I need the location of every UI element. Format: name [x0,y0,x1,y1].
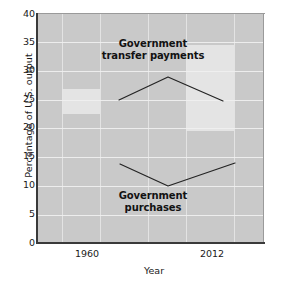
annotation-transfer-line1: Government [78,38,228,50]
annotation-purchases-line2: purchases [78,202,228,214]
y-tick-10: 10 [1,180,35,190]
x-axis-line [36,242,265,244]
annotation-purchases-line1: Government [78,190,228,202]
gridline-20 [38,128,264,129]
annotation-transfer-payments: Government transfer payments [78,38,228,62]
gridline-15 [38,157,264,158]
y-tick-40: 40 [1,9,35,19]
y-tick-20: 20 [1,122,35,132]
plot-right-edge [263,13,264,244]
annotation-transfer-line2: transfer payments [78,50,228,62]
x-tick-1960: 1960 [57,248,117,259]
y-axis-line [36,13,38,244]
gridline-30 [38,71,264,72]
gridline-25 [38,100,264,101]
plot-top-edge [38,13,265,14]
y-axis-tick-labels: 40 35 30 25 20 15 10 5 0 [0,0,35,281]
y-tick-15: 15 [1,151,35,161]
y-tick-5: 5 [1,209,35,219]
value-band-1960 [62,89,100,114]
y-tick-25: 25 [1,94,35,104]
x-tick-2012: 2012 [182,248,242,259]
annotation-purchases: Government purchases [78,190,228,214]
y-tick-35: 35 [1,37,35,47]
x-axis-title: Year [0,265,308,276]
y-tick-30: 30 [1,65,35,75]
gridline-5 [38,215,264,216]
y-tick-0: 0 [1,238,35,248]
gridline-10 [38,186,264,187]
chart-figure: Percentage of U.S. output 40 35 30 25 20… [0,0,308,281]
